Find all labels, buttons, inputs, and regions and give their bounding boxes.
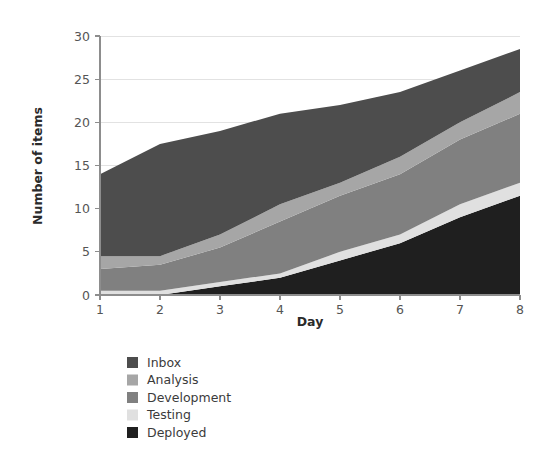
- legend-swatch-development: [127, 392, 138, 403]
- x-tick-label-8: 8: [516, 302, 524, 317]
- x-tick-label-4: 4: [276, 302, 284, 317]
- x-tick-label-2: 2: [156, 302, 164, 317]
- cumulative-flow-chart: 051015202530 12345678 Day Number of item…: [0, 0, 558, 452]
- y-tick-label-15: 15: [74, 158, 90, 173]
- x-tick-label-6: 6: [396, 302, 404, 317]
- legend-swatch-analysis: [127, 375, 138, 386]
- y-tick-label-20: 20: [74, 115, 90, 130]
- legend-label-development: Development: [147, 390, 231, 405]
- x-tick-label-7: 7: [456, 302, 464, 317]
- legend-swatch-testing: [127, 410, 138, 421]
- legend-swatch-inbox: [127, 357, 138, 368]
- y-tick-label-0: 0: [82, 288, 90, 303]
- y-tick-label-25: 25: [74, 72, 90, 87]
- y-tick-label-10: 10: [74, 201, 90, 216]
- x-axis-title: Day: [297, 314, 324, 329]
- legend-label-deployed: Deployed: [147, 425, 206, 440]
- legend-label-testing: Testing: [146, 407, 191, 422]
- legend-label-analysis: Analysis: [147, 372, 199, 387]
- y-tick-label-5: 5: [82, 244, 90, 259]
- x-tick-label-1: 1: [96, 302, 104, 317]
- legend-label-inbox: Inbox: [147, 355, 181, 370]
- legend-swatch-deployed: [127, 427, 138, 438]
- y-tick-label-30: 30: [74, 29, 90, 44]
- x-tick-label-3: 3: [216, 302, 224, 317]
- chart-canvas: 051015202530 12345678 Day Number of item…: [0, 0, 558, 452]
- x-tick-label-5: 5: [336, 302, 344, 317]
- y-axis-title: Number of items: [30, 107, 45, 225]
